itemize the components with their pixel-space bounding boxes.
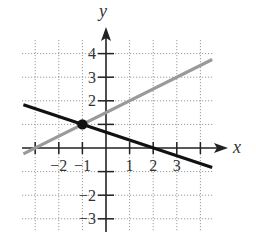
- y-tick-label: 3: [88, 69, 96, 86]
- x-tick-label: 1: [126, 157, 134, 174]
- y-tick-label: 4: [88, 45, 96, 62]
- data-series: [23, 60, 212, 168]
- y-tick-label: −3: [79, 210, 96, 227]
- y-axis-label: y: [97, 1, 107, 21]
- x-axis-label: x: [232, 137, 241, 157]
- line-chart: −2−1123432−2−3 x y: [0, 0, 256, 245]
- series-line: [23, 60, 212, 154]
- y-tick-label: 2: [88, 92, 96, 109]
- x-tick-label: −2: [50, 157, 67, 174]
- intersection-point: [77, 119, 87, 129]
- axes: [22, 27, 228, 232]
- x-tick-label: 2: [149, 157, 157, 174]
- x-tick-label: −1: [74, 157, 91, 174]
- data-points: [77, 119, 87, 129]
- y-tick-label: −2: [79, 187, 96, 204]
- x-tick-label: 3: [173, 157, 181, 174]
